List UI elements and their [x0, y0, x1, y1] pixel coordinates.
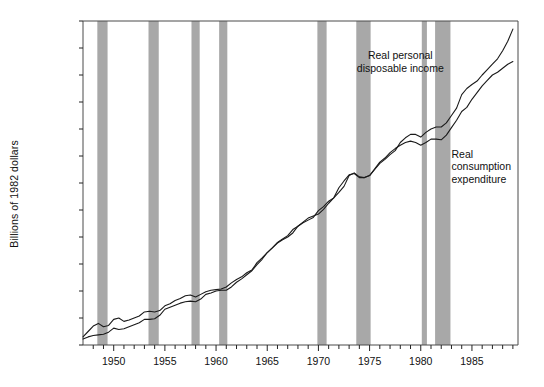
x-tick-label: 1965: [256, 355, 279, 367]
annotation-real-personal-disposable-income: Real personal disposable income: [357, 49, 444, 74]
x-tick-label: 1960: [204, 355, 227, 367]
x-tick-label: 1985: [460, 355, 483, 367]
x-tick-label: 1980: [409, 355, 432, 367]
x-axis-tick-labels: 19501955196019651970197519801985: [0, 0, 544, 387]
x-tick-label: 1970: [307, 355, 330, 367]
x-tick-label: 1975: [358, 355, 381, 367]
chart-figure: Billions of 1982 dollars 6008001,0001,20…: [0, 0, 544, 387]
annotation-real-consumption-expenditure: Real consumption expenditure: [451, 148, 511, 186]
x-tick-label: 1950: [102, 355, 125, 367]
x-tick-label: 1955: [153, 355, 176, 367]
